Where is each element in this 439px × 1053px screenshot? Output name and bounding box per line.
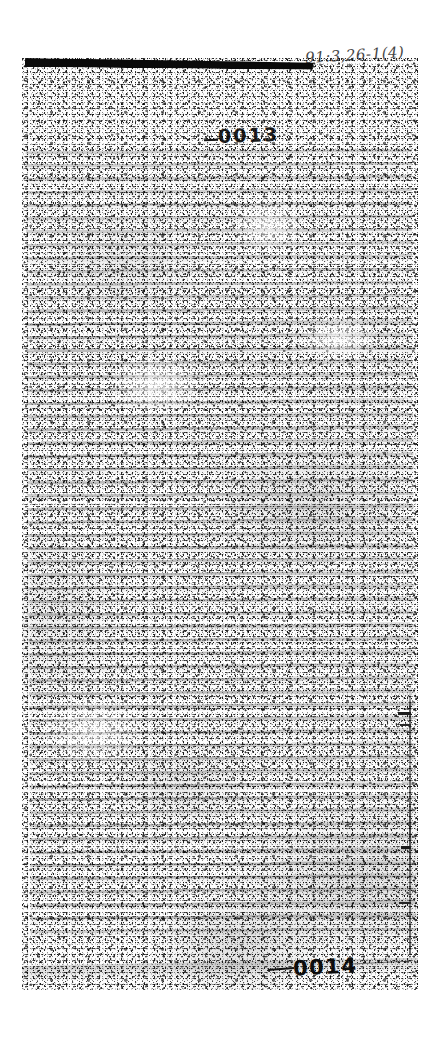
- right-margin: [418, 0, 439, 1053]
- bottom-margin: [0, 990, 439, 1053]
- ghost-text-lines: [26, 149, 417, 936]
- top-page-number-stamp: 0013: [218, 123, 280, 147]
- speckle-noise-layer-a: [22, 58, 418, 993]
- top-margin: [0, 0, 439, 46]
- ghost-text-lines-lower: [27, 305, 415, 931]
- left-margin: [0, 0, 22, 1053]
- right-page-edge-line: [409, 690, 411, 955]
- scanned-sheet: [22, 58, 418, 993]
- page-edge-mark-a: [398, 712, 411, 715]
- toner-blotch-layer: [22, 58, 418, 993]
- speckle-noise-layer-d: [22, 58, 418, 993]
- page-edge-mark-b: [400, 724, 411, 726]
- page-edge-mark-c: [401, 846, 411, 849]
- speckle-noise-layer-c: [22, 58, 418, 993]
- page-edge-mark-d: [399, 902, 411, 904]
- scanned-document-page: 91:3,26-1(4) 0013 0014: [0, 0, 439, 1053]
- speckle-noise-layer-b: [22, 58, 418, 993]
- washed-out-patch-layer: [22, 58, 418, 993]
